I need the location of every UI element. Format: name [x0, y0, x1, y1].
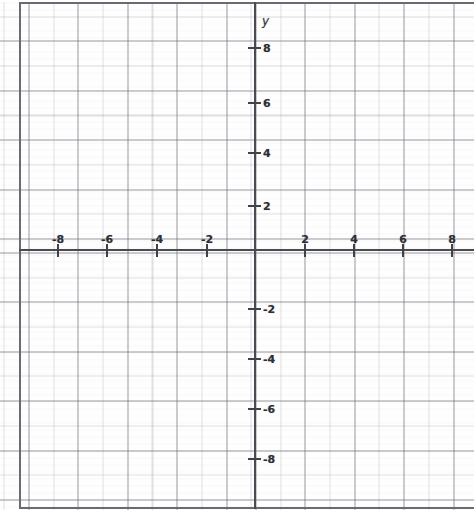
- x-tick-label: 6: [399, 233, 407, 246]
- x-tick-label: 4: [350, 233, 358, 246]
- y-tick-mark: [248, 47, 261, 49]
- y-tick-mark: [248, 308, 261, 310]
- y-tick-mark: [248, 102, 261, 104]
- x-tick-label: -4: [151, 233, 163, 246]
- x-tick-label: -2: [201, 233, 213, 246]
- x-tick-label: 2: [301, 233, 309, 246]
- y-tick-label: 2: [263, 200, 271, 213]
- y-tick-label: 8: [263, 42, 271, 55]
- y-tick-label: 4: [263, 147, 271, 160]
- page-border-top: [19, 2, 474, 4]
- x-tick-label: -8: [52, 233, 64, 246]
- y-tick-mark: [248, 152, 261, 154]
- page-border-bottom: [19, 507, 474, 509]
- x-tick-label: 8: [448, 233, 456, 246]
- y-axis-label: y: [262, 14, 269, 28]
- x-axis-line: [19, 249, 474, 251]
- y-tick-label: -8: [263, 453, 275, 466]
- y-tick-mark: [248, 205, 261, 207]
- y-tick-label: 6: [263, 97, 271, 110]
- y-tick-mark: [248, 358, 261, 360]
- x-tick-label: -6: [101, 233, 113, 246]
- coordinate-grid-figure: -8-6-4-22468 8642-2-4-6-8 y: [0, 0, 474, 531]
- y-tick-label: -4: [263, 353, 275, 366]
- y-tick-mark: [248, 408, 261, 410]
- page-border-left: [19, 2, 21, 509]
- y-tick-mark: [248, 458, 261, 460]
- y-tick-label: -6: [263, 403, 275, 416]
- y-tick-label: -2: [263, 303, 275, 316]
- y-axis-line: [254, 2, 256, 509]
